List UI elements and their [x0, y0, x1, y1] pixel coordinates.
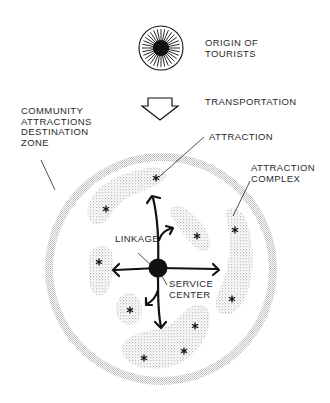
service-center-label: SERVICE CENTER	[169, 279, 213, 300]
service-center-icon	[149, 259, 168, 278]
service-center-leader-line	[162, 276, 167, 285]
diagram-canvas	[0, 0, 330, 403]
zone-leader-line	[41, 160, 55, 190]
origin-sunburst-icon	[139, 26, 183, 70]
transportation-label: TRANSPORTATION	[205, 97, 297, 108]
attraction-cluster-left	[89, 246, 114, 295]
origin-label: ORIGIN OF TOURISTS	[205, 38, 258, 59]
linkage-label: LINKAGE	[115, 234, 159, 245]
transportation-arrow-icon	[142, 98, 178, 120]
attraction-complex-right	[216, 208, 253, 315]
linkage-leader-line	[138, 253, 152, 266]
attraction-cluster-upper-right	[170, 206, 210, 251]
destination-zone-label: COMMUNITY ATTRACTIONS DESTINATION ZONE	[21, 106, 92, 148]
attraction-label: ATTRACTION	[209, 132, 273, 143]
attraction-complex-label: ATTRACTION COMPLEX	[251, 163, 315, 184]
